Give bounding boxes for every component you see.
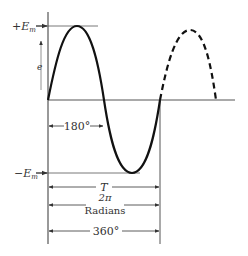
sine-wave-diagram: +Em −Em e 180° T 2π Radians 360°	[0, 0, 248, 256]
full-cycle-label: 360°	[93, 225, 120, 238]
neg-peak-label: −Em	[14, 167, 38, 181]
pos-peak-label: +Em	[12, 20, 36, 34]
radians-label: Radians	[85, 205, 126, 216]
radians-value-label: 2π	[98, 192, 112, 203]
half-cycle-label: 180°	[64, 120, 91, 133]
y-axis-label: e	[37, 62, 42, 72]
sine-curve-dashed	[160, 30, 216, 100]
